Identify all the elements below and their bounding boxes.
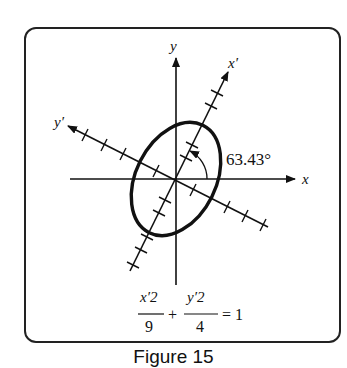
term1-denominator: 9 (145, 318, 153, 335)
ellipse-equation: x′2 9 + y′2 4 = 1 (138, 289, 243, 335)
term2-denominator: 4 (196, 318, 204, 335)
x-prime-axis (127, 72, 228, 271)
figure-caption: Figure 15 (0, 346, 347, 368)
y-axis-label: y (168, 38, 177, 54)
x-axis-label: x (301, 171, 309, 187)
equation-rhs: = 1 (222, 306, 243, 323)
term2-numerator: y′2 (185, 289, 205, 305)
x-prime-axis-label: x′ (227, 55, 239, 71)
rotation-angle-label: 63.43° (226, 150, 271, 169)
y-prime-axis-label: y′ (52, 114, 65, 130)
equation-operator: + (168, 306, 177, 323)
term1-numerator: x′2 (139, 289, 158, 305)
angle-arc (190, 151, 207, 179)
